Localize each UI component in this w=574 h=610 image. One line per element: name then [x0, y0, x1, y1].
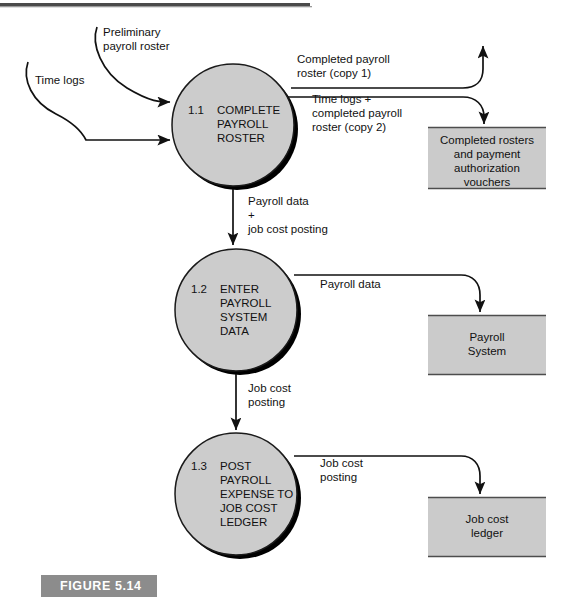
data-store-completed-rosters-line-1: and payment	[454, 148, 521, 160]
figure-caption-label: FIGURE 5.14	[60, 579, 142, 593]
flow-label-payroll-data-plus-job-cost-posting: Payroll data + job cost posting	[247, 195, 328, 235]
process-1-2-number: 1.2	[191, 283, 207, 295]
process-1-3-line-4: LEDGER	[220, 516, 267, 528]
flow-label-job-cost-posting-down-line-1: posting	[248, 396, 285, 408]
data-store-completed-rosters-line-2: authorization	[454, 162, 520, 174]
data-store-completed-rosters-line-0: Completed rosters	[440, 134, 534, 146]
flow-label-completed-payroll-roster-copy-1: Completed payroll roster (copy 1)	[297, 53, 390, 79]
data-store-job-cost-ledger-line-0: Job cost	[466, 513, 510, 525]
flow-label-time-logs-line-0: Time logs	[35, 74, 85, 86]
data-store-completed-rosters[interactable]: Completed rosters and payment authorizat…	[428, 127, 546, 189]
process-1-2-line-1: PAYROLL	[220, 297, 272, 309]
process-1-2-line-3: DATA	[220, 325, 249, 337]
data-store-payroll-system-line-0: Payroll	[469, 331, 504, 343]
flow-arrow-preliminary-payroll-roster	[95, 27, 170, 102]
figure-caption-banner: FIGURE 5.14	[41, 575, 157, 597]
flow-label-payroll-data-plus-job-cost-posting-line-1: +	[248, 209, 255, 221]
figure-container: 1.1 COMPLETE PAYROLL ROSTER 1.2 ENTER PA…	[0, 0, 574, 610]
flow-label-preliminary-payroll-roster-line-1: payroll roster	[103, 40, 170, 52]
flow-label-time-logs-plus-roster-copy-2: Time logs + completed payroll roster (co…	[312, 93, 402, 133]
flow-label-time-logs-plus-roster-copy-2-line-0: Time logs +	[312, 93, 372, 105]
top-rule	[0, 3, 312, 7]
flow-label-job-cost-posting-to-ledger: Job cost posting	[320, 457, 364, 483]
process-1-3-line-2: EXPENSE TO	[220, 488, 293, 500]
flow-label-completed-payroll-roster-copy-1-line-0: Completed payroll	[297, 53, 390, 65]
process-1-3-line-1: PAYROLL	[220, 474, 272, 486]
process-1-1[interactable]: 1.1 COMPLETE PAYROLL ROSTER	[172, 64, 298, 190]
data-store-job-cost-ledger-line-1: ledger	[471, 527, 503, 539]
process-1-3-line-0: POST	[220, 460, 251, 472]
process-1-2[interactable]: 1.2 ENTER PAYROLL SYSTEM DATA	[175, 249, 301, 375]
process-1-2-line-0: ENTER	[220, 283, 259, 295]
flow-label-job-cost-posting-down: Job cost posting	[248, 382, 292, 408]
process-1-3[interactable]: 1.3 POST PAYROLL EXPENSE TO JOB COST LED…	[175, 433, 301, 559]
flow-label-completed-payroll-roster-copy-1-line-1: roster (copy 1)	[297, 67, 371, 79]
data-store-payroll-system-line-1: System	[468, 345, 506, 357]
flow-label-payroll-data-to-system-line-0: Payroll data	[320, 278, 381, 290]
flow-label-payroll-data-to-system: Payroll data	[320, 278, 381, 290]
flow-label-preliminary-payroll-roster-line-0: Preliminary	[103, 26, 161, 38]
data-store-payroll-system[interactable]: Payroll System	[428, 315, 546, 375]
data-store-job-cost-ledger[interactable]: Job cost ledger	[428, 497, 546, 557]
flow-label-payroll-data-plus-job-cost-posting-line-0: Payroll data	[248, 195, 309, 207]
flow-label-time-logs-plus-roster-copy-2-line-1: completed payroll	[312, 107, 402, 119]
process-1-3-number: 1.3	[191, 460, 207, 472]
flow-label-job-cost-posting-to-ledger-line-1: posting	[320, 471, 357, 483]
flow-label-time-logs: Time logs	[35, 74, 85, 86]
flow-label-time-logs-plus-roster-copy-2-line-2: roster (copy 2)	[312, 121, 386, 133]
flow-label-payroll-data-plus-job-cost-posting-line-2: job cost posting	[247, 223, 328, 235]
process-1-1-number: 1.1	[188, 104, 204, 116]
flow-label-job-cost-posting-down-line-0: Job cost	[248, 382, 292, 394]
data-flow-diagram: 1.1 COMPLETE PAYROLL ROSTER 1.2 ENTER PA…	[0, 0, 574, 610]
flow-label-job-cost-posting-to-ledger-line-0: Job cost	[320, 457, 364, 469]
process-1-1-line-2: ROSTER	[217, 132, 265, 144]
process-1-3-line-3: JOB COST	[220, 502, 278, 514]
process-1-1-line-1: PAYROLL	[217, 118, 269, 130]
flow-label-preliminary-payroll-roster: Preliminary payroll roster	[103, 26, 170, 52]
process-1-2-bubble	[175, 249, 297, 371]
process-1-2-line-2: SYSTEM	[220, 311, 267, 323]
data-store-completed-rosters-line-3: vouchers	[464, 176, 511, 188]
process-1-1-line-0: COMPLETE	[217, 104, 281, 116]
